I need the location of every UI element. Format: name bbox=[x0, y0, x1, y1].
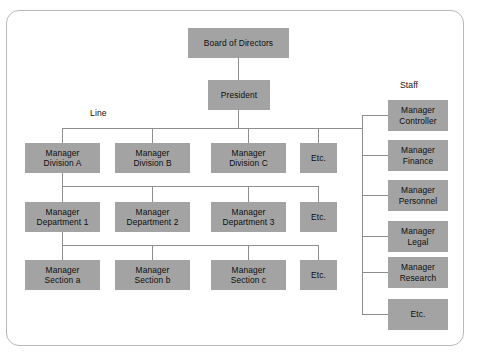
node-label-line1: Manager bbox=[46, 148, 80, 159]
node-label-line2: Department 3 bbox=[223, 217, 275, 228]
node-section-b[interactable]: Manager Section b bbox=[115, 260, 190, 290]
node-label-line1: Manager bbox=[136, 148, 170, 159]
caption-line: Line bbox=[90, 108, 107, 118]
node-department-1[interactable]: Manager Department 1 bbox=[25, 202, 100, 232]
node-label-line1: Manager bbox=[232, 207, 266, 218]
node-staff-etc[interactable]: Etc. bbox=[388, 299, 448, 330]
org-chart-canvas: Line Staff Board of Directors President … bbox=[0, 0, 478, 360]
node-label-line1: Manager bbox=[136, 265, 170, 276]
node-label-line1: Etc. bbox=[311, 270, 326, 281]
node-label-line1: Manager bbox=[46, 265, 80, 276]
node-staff-research[interactable]: Manager Research bbox=[388, 257, 448, 288]
node-label-line1: Manager bbox=[401, 105, 435, 116]
node-section-a[interactable]: Manager Section a bbox=[25, 260, 100, 290]
node-label-line2: Section c bbox=[231, 275, 266, 286]
node-label-line1: Manager bbox=[232, 265, 266, 276]
node-label-line1: Manager bbox=[401, 185, 435, 196]
node-label-line2: Legal bbox=[408, 237, 429, 248]
node-label-line2: Finance bbox=[403, 156, 434, 167]
node-label-line2: Department 2 bbox=[127, 217, 179, 228]
node-section-c[interactable]: Manager Section c bbox=[211, 260, 286, 290]
node-label-line1: Manager bbox=[401, 262, 435, 273]
node-staff-personnel[interactable]: Manager Personnel bbox=[388, 180, 448, 211]
node-label-line2: Division C bbox=[229, 158, 268, 169]
node-label-line1: Manager bbox=[136, 207, 170, 218]
node-label-line2: Division B bbox=[133, 158, 171, 169]
node-section-etc[interactable]: Etc. bbox=[300, 260, 337, 290]
node-label-line2: Research bbox=[400, 273, 437, 284]
node-label-line1: Etc. bbox=[311, 153, 326, 164]
node-label-line2: Department 1 bbox=[37, 217, 89, 228]
node-label-line2: Personnel bbox=[399, 196, 438, 207]
node-president[interactable]: President bbox=[208, 80, 270, 110]
node-label-line1: Etc. bbox=[311, 212, 326, 223]
node-division-etc[interactable]: Etc. bbox=[300, 143, 337, 173]
node-board-of-directors[interactable]: Board of Directors bbox=[188, 28, 289, 58]
node-label-line1: Manager bbox=[46, 207, 80, 218]
node-label-line1: Etc. bbox=[411, 309, 426, 320]
node-department-etc[interactable]: Etc. bbox=[300, 202, 337, 232]
node-label-line2: Division A bbox=[44, 158, 82, 169]
node-division-a[interactable]: Manager Division A bbox=[25, 143, 100, 173]
node-label-line2: Section b bbox=[135, 275, 171, 286]
node-department-3[interactable]: Manager Department 3 bbox=[211, 202, 286, 232]
node-department-2[interactable]: Manager Department 2 bbox=[115, 202, 190, 232]
node-staff-legal[interactable]: Manager Legal bbox=[388, 221, 448, 252]
node-label-line1: Manager bbox=[401, 145, 435, 156]
node-division-b[interactable]: Manager Division B bbox=[115, 143, 190, 173]
node-label-line1: Manager bbox=[232, 148, 266, 159]
node-division-c[interactable]: Manager Division C bbox=[211, 143, 286, 173]
node-label-line2: Section a bbox=[45, 275, 81, 286]
node-label-line2: Controller bbox=[399, 116, 436, 127]
node-label-line1: Manager bbox=[401, 226, 435, 237]
node-label-line1: President bbox=[221, 90, 257, 101]
node-label-line1: Board of Directors bbox=[204, 38, 273, 49]
node-staff-controller[interactable]: Manager Controller bbox=[388, 100, 448, 131]
node-staff-finance[interactable]: Manager Finance bbox=[388, 140, 448, 171]
caption-staff: Staff bbox=[400, 80, 418, 90]
